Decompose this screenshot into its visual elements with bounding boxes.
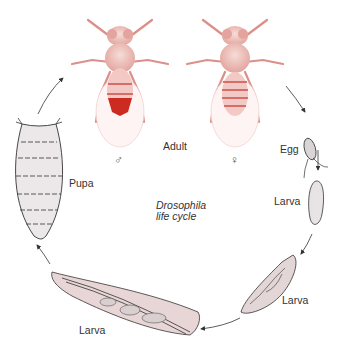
larva-2-label: Larva	[282, 295, 308, 306]
arrow-adult-to-egg	[286, 86, 305, 112]
egg-label: Egg	[280, 144, 299, 155]
arrow-larva1-to-larva2	[301, 234, 312, 254]
arrow-larva3-to-pupa	[37, 245, 50, 264]
female-fly-illustration	[187, 20, 283, 147]
egg-illustration	[302, 137, 328, 178]
larva-3-label: Larva	[79, 325, 105, 336]
male-fly-illustration	[72, 20, 168, 147]
larva-1-illustration	[309, 181, 324, 224]
male-symbol: ♂	[114, 154, 123, 166]
diagram-title: Drosophila life cycle	[156, 200, 206, 222]
arrow-larva2-to-larva3	[201, 318, 240, 329]
pupa-label: Pupa	[69, 178, 94, 189]
female-symbol: ♀	[230, 154, 239, 166]
drosophila-life-cycle-diagram: Adult ♂ ♀ Egg Larva Larva Larva Pupa Dro…	[0, 0, 341, 348]
adult-label: Adult	[163, 141, 187, 152]
larva-1-label: Larva	[274, 196, 300, 207]
title-line-2: life cycle	[156, 211, 206, 222]
pupa-illustration	[16, 118, 63, 239]
arrow-pupa-to-adult	[38, 78, 63, 114]
larva-3-illustration	[52, 272, 200, 335]
